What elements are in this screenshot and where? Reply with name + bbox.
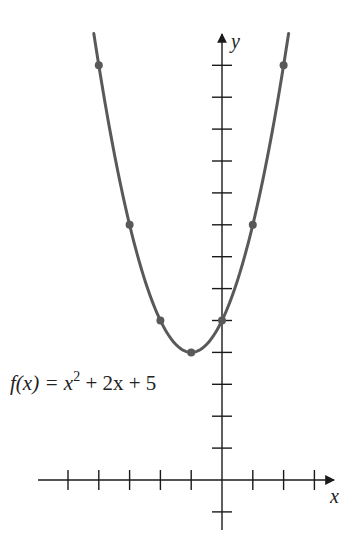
y-axis-label: y <box>229 30 240 53</box>
function-label-prefix: f(x) = x <box>10 371 74 395</box>
function-label-exponent: 2 <box>73 369 80 384</box>
data-point <box>126 221 134 229</box>
data-points <box>95 61 288 356</box>
function-label-suffix: + 2x + 5 <box>80 371 156 395</box>
data-point <box>156 317 164 325</box>
data-point <box>95 61 103 69</box>
data-point <box>218 317 226 325</box>
parabola-curve <box>94 33 289 352</box>
x-axis-label: x <box>329 485 339 507</box>
data-point <box>280 61 288 69</box>
data-point <box>249 221 257 229</box>
parabola-chart: x y f(x) = x2 + 2x + 5 <box>0 0 352 536</box>
data-point <box>187 348 195 356</box>
function-label: f(x) = x2 + 2x + 5 <box>10 369 156 395</box>
